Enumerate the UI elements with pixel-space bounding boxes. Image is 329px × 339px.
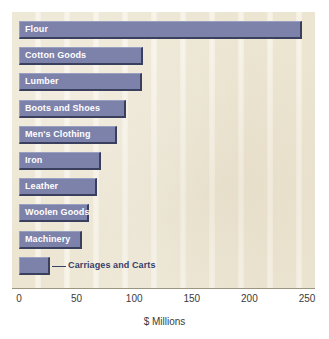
bar-row: Men's Clothing — [12, 126, 315, 144]
x-tick-label: 150 — [183, 293, 200, 304]
bar-label: Men's Clothing — [25, 129, 91, 139]
bar-flour[interactable] — [19, 21, 302, 39]
bar-label: Woolen Goods — [25, 207, 90, 217]
bar-row: Machinery — [12, 231, 315, 249]
bar-carriages-and-carts[interactable] — [19, 257, 50, 275]
x-tick-label: 100 — [126, 293, 143, 304]
bar-row: Woolen Goods — [12, 204, 315, 222]
bar-label: Machinery — [25, 234, 70, 244]
bar-row: Boots and Shoes — [12, 100, 315, 118]
x-tick-label: 250 — [299, 293, 316, 304]
bar-label: Cotton Goods — [25, 50, 86, 60]
bar-row: Flour — [12, 21, 315, 39]
x-tick-label: 200 — [241, 293, 258, 304]
plot-area: FlourCotton GoodsLumberBoots and ShoesMe… — [12, 12, 315, 288]
bar-row: Carriages and Carts — [12, 257, 315, 275]
x-axis-line — [12, 288, 315, 289]
leader-line — [52, 266, 66, 267]
x-axis-title: $ Millions — [0, 316, 329, 327]
bar-row: Lumber — [12, 73, 315, 91]
bar-row: Leather — [12, 178, 315, 196]
bar-label: Leather — [25, 181, 58, 191]
bar-label: Lumber — [25, 76, 59, 86]
bar-label: Iron — [25, 155, 42, 165]
x-tick-label: 50 — [71, 293, 82, 304]
bar-row: Cotton Goods — [12, 47, 315, 65]
bar-label: Boots and Shoes — [25, 103, 100, 113]
bar-label: Flour — [25, 24, 48, 34]
bar-row: Iron — [12, 152, 315, 170]
x-tick-label: 0 — [16, 293, 22, 304]
bar-chart: FlourCotton GoodsLumberBoots and ShoesMe… — [0, 0, 329, 339]
bar-label: Carriages and Carts — [68, 260, 155, 270]
x-axis-tick-labels: 050100150200250 — [0, 293, 329, 307]
